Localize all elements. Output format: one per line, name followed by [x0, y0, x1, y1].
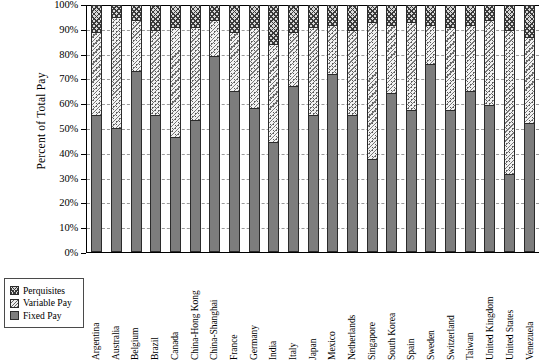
bar-slot: [500, 5, 520, 252]
bar-series-container: [87, 5, 539, 252]
stacked-bar[interactable]: [190, 5, 201, 252]
x-axis-label-slot: Italy: [283, 253, 303, 360]
stacked-bar[interactable]: [484, 5, 495, 252]
x-axis-label-slot: Taiwan: [460, 253, 480, 360]
bar-slot: [225, 5, 245, 252]
x-axis-tick-label: Mexico: [327, 257, 337, 360]
x-axis-tick-label: Netherlands: [347, 257, 357, 360]
stacked-bar[interactable]: [249, 5, 260, 252]
y-axis-tick-label: 0%: [64, 248, 78, 258]
bar-slot: [107, 5, 127, 252]
stacked-bar[interactable]: [504, 5, 515, 252]
x-axis-tick-label: Argentina: [91, 257, 101, 360]
bar-segment-perq: [466, 6, 475, 26]
stacked-bar[interactable]: [445, 5, 456, 252]
bar-segment-perq: [387, 6, 396, 26]
x-axis-label-slot: Argentina: [86, 253, 106, 360]
stacked-bar[interactable]: [367, 5, 378, 252]
stacked-bar[interactable]: [425, 5, 436, 252]
x-axis-label-slot: Belgium: [125, 253, 145, 360]
bar-segment-perq: [92, 6, 101, 33]
bar-segment-var: [132, 21, 141, 72]
bar-segment-perq: [230, 6, 239, 33]
x-axis-tick-label: United States: [505, 257, 515, 360]
x-axis-label-slot: Brazil: [145, 253, 165, 360]
bar-segment-fixed: [328, 75, 337, 251]
bar-segment-fixed: [92, 116, 101, 251]
x-axis-tick-label: France: [229, 257, 239, 360]
bar-slot: [441, 5, 461, 252]
legend-item[interactable]: Variable Pay: [10, 298, 79, 308]
stacked-bar[interactable]: [386, 5, 397, 252]
stacked-bar[interactable]: [111, 5, 122, 252]
x-axis-tick-label: Japan: [308, 257, 318, 360]
stacked-bar[interactable]: [209, 5, 220, 252]
x-axis-tick-label: China-Hong Kong: [190, 257, 200, 360]
bar-segment-perq: [368, 6, 377, 23]
bar-segment-fixed: [426, 65, 435, 251]
y-axis-tick-label: 40%: [59, 149, 78, 159]
legend-label: Perquisites: [23, 286, 65, 296]
y-axis-tick-label: 80%: [59, 50, 78, 60]
stacked-bar[interactable]: [327, 5, 338, 252]
x-axis-tick-label: India: [268, 257, 278, 360]
x-axis-label-slot: Canada: [165, 253, 185, 360]
stacked-bar[interactable]: [170, 5, 181, 252]
x-axis-label-slot: Spain: [401, 253, 421, 360]
stacked-bar[interactable]: [268, 5, 279, 252]
stacked-bar[interactable]: [288, 5, 299, 252]
x-axis-label-slot: Netherlands: [342, 253, 362, 360]
y-axis-tick-label: 10%: [59, 223, 78, 233]
x-axis-tick-label: United Kingdom: [485, 257, 495, 360]
stacked-bar[interactable]: [524, 5, 535, 252]
bar-segment-perq: [191, 6, 200, 28]
y-axis-tick-label: 60%: [59, 99, 78, 109]
bar-segment-perq: [426, 6, 435, 26]
bar-slot: [402, 5, 422, 252]
stacked-bar[interactable]: [406, 5, 417, 252]
stacked-bar[interactable]: [91, 5, 102, 252]
bar-segment-perq: [348, 6, 357, 31]
stacked-bar[interactable]: [465, 5, 476, 252]
bar-slot: [519, 5, 539, 252]
x-axis-tick-label: China-Shanghai: [209, 257, 219, 360]
stacked-bar[interactable]: [150, 5, 161, 252]
x-axis-label-slot: South Korea: [382, 253, 402, 360]
bar-segment-fixed: [446, 111, 455, 251]
bar-segment-perq: [132, 6, 141, 21]
bar-segment-perq: [407, 6, 416, 23]
bar-segment-perq: [171, 6, 180, 28]
x-axis-label-slot: France: [224, 253, 244, 360]
stacked-bar[interactable]: [347, 5, 358, 252]
y-axis-labels: 0%10%20%30%40%50%60%70%80%90%100%: [0, 0, 86, 258]
bar-segment-fixed: [387, 94, 396, 251]
bar-slot: [87, 5, 107, 252]
bar-segment-var: [210, 21, 219, 58]
bar-segment-var: [387, 26, 396, 95]
legend-swatch-fixed-icon: [10, 311, 19, 320]
bar-segment-var: [466, 26, 475, 92]
stacked-bar[interactable]: [308, 5, 319, 252]
legend-item[interactable]: Fixed Pay: [10, 311, 79, 321]
x-axis-tick-label: South Korea: [387, 257, 397, 360]
x-axis-tick-label: Taiwan: [465, 257, 475, 360]
bar-segment-fixed: [407, 111, 416, 251]
legend-label: Variable Pay: [23, 298, 72, 308]
bar-segment-var: [407, 23, 416, 111]
bar-slot: [323, 5, 343, 252]
stacked-bar[interactable]: [229, 5, 240, 252]
bar-segment-var: [309, 28, 318, 116]
bar-segment-perq: [250, 6, 259, 28]
bar-slot: [421, 5, 441, 252]
x-axis-tick-label: Germany: [249, 257, 259, 360]
stacked-bar[interactable]: [131, 5, 142, 252]
bar-segment-fixed: [368, 160, 377, 251]
x-axis-label-slot: China-Hong Kong: [185, 253, 205, 360]
bar-slot: [146, 5, 166, 252]
bar-slot: [362, 5, 382, 252]
bar-segment-fixed: [525, 124, 534, 251]
legend-item[interactable]: Perquisites: [10, 286, 79, 296]
y-axis-tick-label: 50%: [59, 124, 78, 134]
bar-segment-perq: [525, 6, 534, 38]
bar-segment-var: [525, 38, 534, 124]
